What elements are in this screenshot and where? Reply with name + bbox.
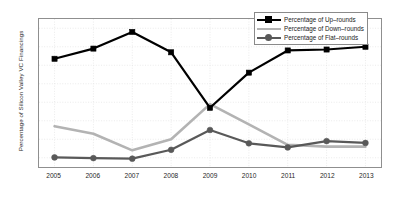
data-point-marker (169, 50, 174, 55)
data-point-marker (363, 140, 369, 146)
x-axis-tick-label: 2008 (151, 172, 191, 180)
data-point-marker (129, 156, 135, 162)
data-point-marker (207, 105, 212, 110)
data-point-marker (91, 46, 96, 51)
legend-marker (265, 34, 272, 41)
data-point-marker (285, 145, 291, 151)
x-axis-tick-label: 2013 (346, 172, 386, 180)
data-point-marker (91, 155, 97, 161)
series-line (55, 130, 366, 159)
data-point-marker (52, 56, 57, 61)
legend-label: Percentage of Down–rounds (284, 24, 364, 33)
legend-swatch (257, 15, 281, 24)
legend-marker (265, 16, 272, 23)
chart-legend: Percentage of Up–roundsPercentage of Dow… (254, 12, 368, 45)
data-point-marker (285, 48, 290, 53)
legend-line (257, 28, 281, 30)
data-point-marker (168, 147, 174, 153)
legend-item[interactable]: Percentage of Down–rounds (257, 24, 364, 33)
x-axis-tick-label: 2007 (112, 172, 152, 180)
data-point-marker (324, 47, 329, 52)
legend-item[interactable]: Percentage of Flat–rounds (257, 33, 364, 42)
data-point-marker (207, 127, 213, 133)
x-axis-tick-label: 2006 (73, 172, 113, 180)
x-axis-tick-label: 2010 (229, 172, 269, 180)
legend-label: Percentage of Flat–rounds (284, 33, 358, 42)
x-axis-tick-label: 2011 (268, 172, 308, 180)
data-point-marker (246, 140, 252, 146)
chart-figure: Percentage of Silicon Valley VC Financin… (0, 0, 400, 200)
legend-label: Percentage of Up–rounds (284, 15, 356, 24)
legend-swatch (257, 24, 281, 33)
y-axis-title: Percentage of Silicon Valley VC Financin… (14, 6, 28, 176)
series-percentage-of-flat-rounds (52, 127, 369, 161)
data-point-marker (52, 155, 58, 161)
data-point-marker (324, 138, 330, 144)
legend-item[interactable]: Percentage of Up–rounds (257, 15, 364, 24)
data-point-marker (246, 70, 251, 75)
x-axis-tick-label: 2005 (34, 172, 74, 180)
legend-swatch (257, 33, 281, 42)
x-axis-tick-label: 2012 (307, 172, 347, 180)
data-point-marker (130, 29, 135, 34)
x-axis-tick-label: 2009 (190, 172, 230, 180)
